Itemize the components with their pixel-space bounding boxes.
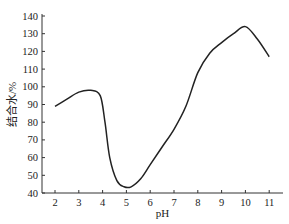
y-tick-label: 40 (28, 188, 39, 199)
x-tick-label: 7 (171, 197, 176, 208)
x-tick-label: 6 (148, 197, 153, 208)
x-axis-title: pH (156, 207, 170, 219)
y-tick-label: 110 (23, 64, 38, 75)
y-tick-label: 60 (28, 152, 39, 163)
x-tick-label: 5 (124, 197, 129, 208)
x-tick-label: 9 (219, 197, 224, 208)
y-tick-label: 140 (22, 11, 38, 22)
y-tick-label: 100 (22, 81, 38, 92)
x-tick-label: 3 (76, 197, 81, 208)
y-tick-label: 130 (22, 28, 38, 39)
y-tick-label: 70 (28, 134, 39, 145)
y-axis-title: 结合水/% (5, 82, 18, 127)
x-tick-label: 4 (100, 197, 106, 208)
y-tick-label: 50 (28, 170, 39, 181)
y-tick-label: 120 (22, 46, 38, 57)
y-tick-label: 90 (28, 99, 39, 110)
x-tick-label: 10 (240, 197, 251, 208)
series-line (55, 27, 269, 188)
x-tick-label: 11 (264, 197, 274, 208)
y-tick-label: 80 (28, 117, 39, 128)
x-tick-label: 8 (195, 197, 200, 208)
x-tick-label: 2 (52, 197, 57, 208)
chart: 405060708090100110120130140234567891011p… (0, 0, 289, 224)
